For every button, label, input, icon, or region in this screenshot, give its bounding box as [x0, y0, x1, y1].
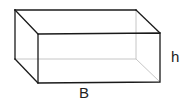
bottom-left-depth-edge — [15, 59, 38, 83]
box-diagram: B h — [0, 0, 190, 101]
front-face — [38, 33, 160, 83]
base-label: B — [79, 84, 89, 101]
visible-edges — [15, 10, 160, 83]
top-right-depth-edge — [136, 10, 160, 33]
top-left-depth-edge — [15, 10, 38, 34]
hidden-edges — [15, 10, 160, 82]
hidden-bottom-right-depth-edge — [136, 59, 160, 82]
height-label: h — [171, 48, 179, 65]
